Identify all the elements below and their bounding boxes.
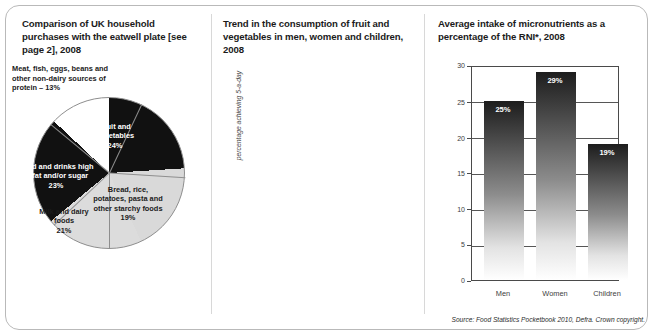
panel-2-title: Trend in the consumption of fruit and ve… [223,17,423,56]
pie-slice-label-fat-sugar: Food and drinks high in fat and/or sugar… [16,162,96,190]
pie-slice-value-fat: 23% [49,181,64,190]
panel-3-title: Average intake of micronutrients as a pe… [438,17,643,43]
panel-household-purchases: Comparison of UK household purchases wit… [0,0,211,335]
pie-external-label-meat: Meat, fish, eggs, beans and other non-da… [12,64,122,93]
panel-micronutrient-intake: Average intake of micronutrients as a pe… [424,0,653,335]
pie-slice-value-fruit: 24% [108,141,123,150]
pie-slice-name-fruit: Fruit and vegetables [96,122,134,140]
pie-slice-name-fat: Food and drinks high in fat and/or sugar [18,162,93,180]
panel-fruit-veg-consumption: Trend in the consumption of fruit and ve… [211,0,424,335]
pie-slice-label-bread-starchy: Bread, rice, potatoes, pasta and other s… [92,185,164,223]
pie-slice-name-bread: Bread, rice, potatoes, pasta and other s… [93,185,162,213]
pie-slice-value-bread: 19% [121,213,136,222]
column-chart-y-axis-label: percentage achieving 5-a-day [235,51,242,181]
pie-slice-label-milk-dairy: Milk and dairy foods 21% [30,207,98,235]
pie-slice-name-milk: Milk and dairy foods [39,207,88,225]
pie-slice-value-milk: 21% [57,226,72,235]
infographic-page: Comparison of UK household purchases wit… [0,0,653,335]
panel-1-title: Comparison of UK household purchases wit… [22,17,202,56]
pie-slice-label-fruit-vegetables: Fruit and vegetables 24% [84,122,146,150]
source-attribution: Source: Food Statistics Pocketbook 2010,… [430,316,645,323]
